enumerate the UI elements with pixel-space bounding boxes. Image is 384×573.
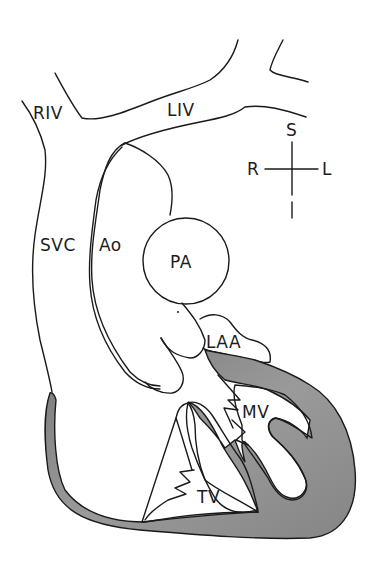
tricuspid-valve bbox=[145, 470, 194, 520]
label-mv: MV bbox=[242, 402, 269, 422]
label-tv: TV bbox=[196, 487, 220, 507]
label-liv: LIV bbox=[167, 100, 195, 120]
orientation-compass: S R L bbox=[247, 120, 332, 218]
label-riv: RIV bbox=[33, 103, 63, 123]
innominate-veins bbox=[22, 40, 308, 392]
myocardium bbox=[45, 350, 355, 538]
compass-superior: S bbox=[286, 120, 297, 140]
compass-left: L bbox=[322, 159, 332, 179]
heart-diagram: RIV LIV SVC Ao PA LAA MV TV S R L bbox=[0, 0, 384, 573]
label-svc: SVC bbox=[40, 235, 76, 255]
aortic-root bbox=[145, 303, 205, 393]
aorta bbox=[89, 143, 172, 389]
label-pa: PA bbox=[170, 252, 192, 272]
label-ao: Ao bbox=[99, 235, 122, 255]
label-laa: LAA bbox=[206, 332, 241, 352]
compass-right: R bbox=[247, 159, 259, 179]
